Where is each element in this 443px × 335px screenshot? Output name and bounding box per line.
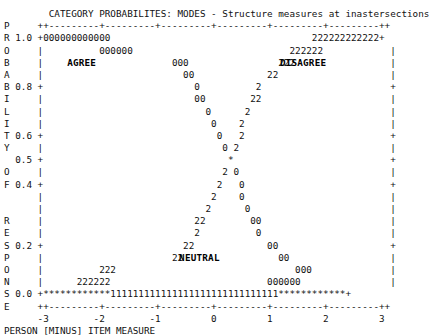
plot-row: 0.5 + * + [4, 154, 443, 166]
chart-title: CATEGORY PROBABILITES: MODES - Structure… [0, 8, 443, 20]
plot-row: E | 2 0 | [4, 227, 443, 239]
plot-row: S 0.0 +************111111111111111111111… [4, 288, 443, 300]
plot-row: I | 0 2 | [4, 118, 443, 130]
plot-row: O | 000000 222222 | [4, 45, 443, 57]
plot-row: Y | 0 2 | [4, 142, 443, 154]
plot-row: | 2 0 | [4, 203, 443, 215]
plot-row: S 0.2 + 22 00 + [4, 240, 443, 252]
annotation-agree: AGREE [67, 57, 96, 68]
plot-row: O | 2 0 | [4, 166, 443, 178]
plot-row: R | 22 00 | [4, 215, 443, 227]
plot-row: O | 222 000 | [4, 264, 443, 276]
plot-row: | 2 0 | [4, 191, 443, 203]
plot-row: I | 00 22 | [4, 93, 443, 105]
x-axis-label: PERSON [MINUS] ITEM MEASURE [0, 325, 443, 335]
plot-row: A | 00 22 | [4, 69, 443, 81]
plot-row: L | 0 2 | [4, 106, 443, 118]
plot-row: F 0.4 + 2 0 + [4, 179, 443, 191]
plot-row: N | 222222 000000 | [4, 276, 443, 288]
category-probabilities-chart: CATEGORY PROBABILITES: MODES - Structure… [0, 0, 443, 335]
annotation-neutral: NEUTRAL [179, 252, 220, 263]
plot-row: R 1.0 +000000000000 222222222222+ [4, 32, 443, 44]
plot-row: T 0.6 + 0 2 + [4, 130, 443, 142]
plot-row: -3 -2 -1 0 1 2 3 [4, 313, 443, 325]
plot-row: P ++---------+---------+---------+------… [4, 20, 443, 32]
plot-row: B 0.8 + 0 2 + [4, 81, 443, 93]
plot-row: E ++---------+---------+---------+------… [4, 301, 443, 313]
plot-row: P | 22 00 | [4, 252, 443, 264]
annotation-disagree: DISAGREE [280, 57, 326, 68]
